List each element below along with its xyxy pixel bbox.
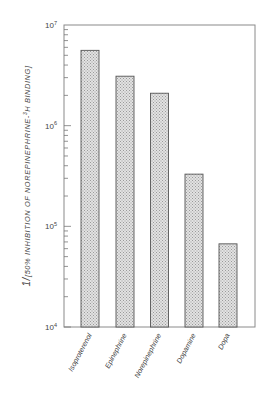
y-axis-title: 1/[50% INHIBITION OF NOREPINEPHRINE-3H B…	[21, 65, 32, 286]
bar-epinephrine	[116, 76, 134, 327]
y-tick-label: 105	[45, 221, 57, 232]
bars	[81, 50, 237, 327]
bar-norepinephrine	[151, 93, 169, 327]
y-tick-label: 106	[45, 120, 57, 131]
y-axis-tick-labels: 104105106107	[45, 20, 57, 333]
bar-chart: 104105106107 IsoproterenolEpinephrineNor…	[0, 0, 270, 404]
y-tick-label: 107	[45, 20, 57, 31]
x-tick-label: Norepinephrine	[132, 332, 163, 380]
bar-dopamine	[185, 174, 203, 327]
y-axis-label: 1/[50% INHIBITION OF NOREPINEPHRINE-3H B…	[21, 65, 32, 286]
x-tick-label: Dopa	[216, 332, 232, 351]
bar-dopa	[219, 244, 237, 327]
x-axis-category-labels: IsoproterenolEpinephrineNorepinephrineDo…	[66, 331, 232, 379]
bar-isoproterenol	[81, 50, 99, 327]
x-tick-label: Epinephrine	[103, 332, 129, 370]
x-tick-label: Isoproterenol	[66, 331, 94, 373]
x-tick-label: Dopamine	[174, 332, 197, 365]
y-tick-label: 104	[45, 322, 57, 333]
y-axis-ticks	[64, 30, 71, 327]
